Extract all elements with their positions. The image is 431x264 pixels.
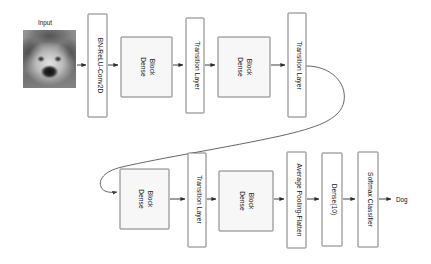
node-dense-block-2-label-line1: Dense (237, 57, 244, 77)
node-dense-block-1-label-line2: Block (149, 59, 156, 76)
node-dense-block-3-label-line1: Dense (138, 189, 145, 209)
node-dense-block-2[interactable] (218, 37, 270, 97)
node-transition-layer-2-label: Transition Layer (295, 41, 303, 90)
diagram-canvas: Input BN-ReLU-Conv2D Dense Block Transit… (0, 0, 431, 264)
node-dense-block-2-label-line2: Block (246, 59, 253, 76)
node-transition-layer-3-label: Transition Layer (195, 175, 203, 224)
node-dense-block-4-label-line1: Dense (239, 191, 246, 211)
node-dense-block-3-label-line2: Block (147, 191, 154, 208)
node-average-pooling-flatten-label: Average Pooling-Flatten (295, 164, 303, 237)
architecture-diagram: Input BN-ReLU-Conv2D Dense Block Transit… (0, 0, 431, 264)
output-label: Dog (396, 196, 408, 204)
node-softmax-classifier-label: Softmax Classifier (367, 172, 374, 228)
node-transition-layer-1-label: Transition Layer (193, 41, 201, 90)
node-dense-block-4-label-line2: Block (248, 193, 255, 210)
node-dense-block-3[interactable] (120, 169, 169, 229)
node-bn-relu-conv2d-label: BN-ReLU-Conv2D (97, 38, 104, 94)
node-dense-block-4[interactable] (219, 171, 273, 231)
node-dense-block-1-label-line1: Dense (140, 57, 147, 77)
input-label: Input (38, 19, 52, 27)
node-dense-10-label: Dense(10) (330, 184, 338, 216)
